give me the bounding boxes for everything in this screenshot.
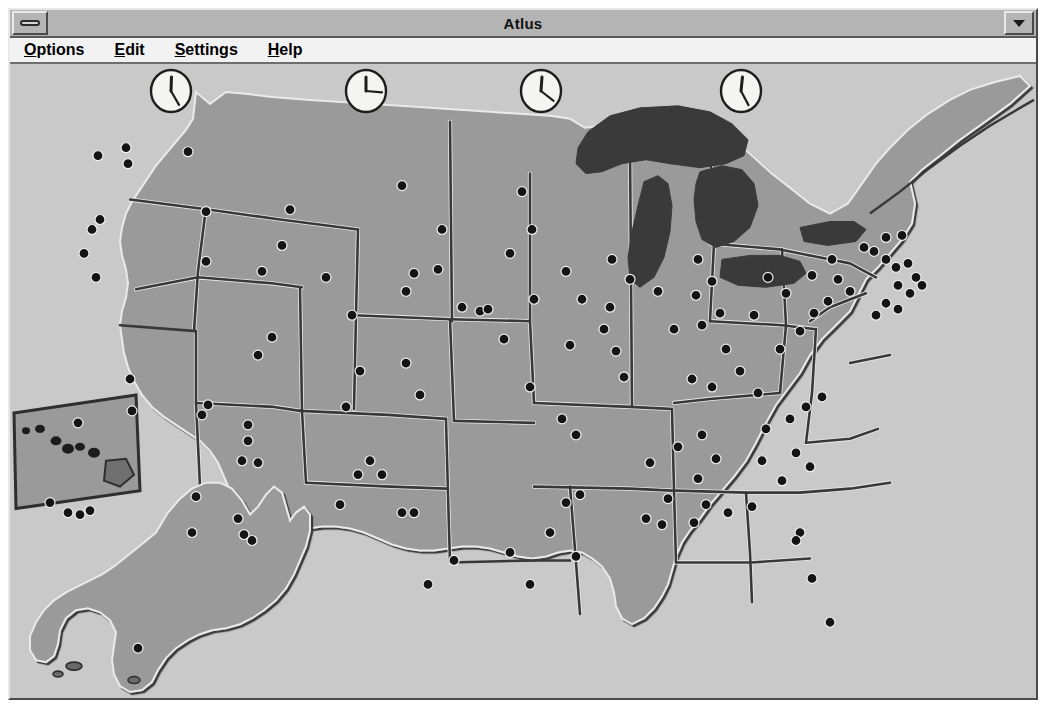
lake-erie xyxy=(720,255,806,287)
title-bar[interactable]: Atlus xyxy=(10,10,1036,38)
lake-ontario xyxy=(800,222,866,246)
menu-accel-edit: E xyxy=(114,41,125,58)
menu-item-edit[interactable]: Edit xyxy=(114,41,144,59)
hawaii-inset-frame xyxy=(14,395,140,509)
menu-item-settings[interactable]: Settings xyxy=(175,41,238,59)
system-menu-button[interactable] xyxy=(12,11,48,35)
minimize-button[interactable] xyxy=(1004,11,1034,35)
menu-accel-settings: S xyxy=(175,41,186,58)
menu-label-edit: dit xyxy=(125,41,145,58)
menu-accel-options: O xyxy=(24,41,36,58)
hawaii-inset xyxy=(14,395,140,509)
chevron-down-icon xyxy=(1013,20,1025,27)
menu-accel-help: H xyxy=(268,41,280,58)
menu-item-help[interactable]: Help xyxy=(268,41,303,59)
screen: Atlus Options Edit Settings Help xyxy=(0,0,1046,707)
us-map-svg xyxy=(10,64,1036,698)
minimize-bar-icon xyxy=(20,20,40,26)
clock-central[interactable] xyxy=(518,68,564,114)
menu-label-options: ptions xyxy=(36,41,84,58)
menu-item-options[interactable]: Options xyxy=(24,41,84,59)
menu-label-help: elp xyxy=(279,41,302,58)
clock-pacific[interactable] xyxy=(148,68,194,114)
clock-mountain[interactable] xyxy=(343,68,389,114)
atlus-window: Atlus Options Edit Settings Help xyxy=(8,8,1038,700)
clock-eastern[interactable] xyxy=(718,68,764,114)
window-title: Atlus xyxy=(10,15,1036,32)
menu-label-settings: ettings xyxy=(185,41,237,58)
map-canvas[interactable] xyxy=(10,64,1036,698)
menu-bar: Options Edit Settings Help xyxy=(10,38,1036,64)
